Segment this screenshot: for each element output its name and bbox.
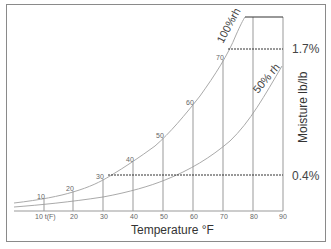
x-tick-30: 30 bbox=[100, 213, 108, 220]
x-tick-60: 60 bbox=[190, 213, 198, 220]
point-label-10: 10 bbox=[37, 193, 45, 200]
x-tick-20: 20 bbox=[70, 213, 78, 220]
ref-label-0-4: 0.4% bbox=[292, 169, 320, 183]
x-tick-40: 40 bbox=[130, 213, 138, 220]
x-tick-70: 70 bbox=[220, 213, 228, 220]
x-tick-80: 80 bbox=[250, 213, 258, 220]
point-label-60: 60 bbox=[186, 99, 194, 106]
point-label-20: 20 bbox=[66, 185, 74, 192]
point-label-40: 40 bbox=[126, 156, 134, 163]
point-label-50: 50 bbox=[156, 132, 164, 139]
point-label-70: 70 bbox=[216, 54, 224, 61]
point-label-30: 30 bbox=[96, 173, 104, 180]
vertical-lines bbox=[44, 17, 283, 211]
curve-label-100-rh: 100%rh bbox=[214, 6, 242, 45]
x-tick-10: 10 t(F) bbox=[35, 213, 56, 221]
x-tick-50: 50 bbox=[160, 213, 168, 220]
x-tick-90: 90 bbox=[279, 213, 287, 220]
curve-label-50-rh: 50% rh bbox=[250, 61, 282, 95]
curve-50-rh bbox=[14, 66, 282, 207]
ref-label-1-7: 1.7% bbox=[292, 42, 320, 56]
x-axis-title: Temperature °F bbox=[131, 223, 214, 237]
psychrometric-chart: 10 20 30 40 50 60 70 10 t(F) 20 30 40 50… bbox=[0, 0, 331, 249]
y-axis-title: Moisture lb/lb bbox=[296, 71, 310, 143]
